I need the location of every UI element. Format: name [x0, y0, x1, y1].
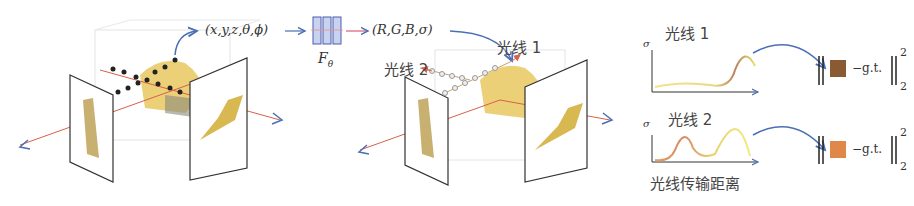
plot-ray-1: [652, 50, 758, 92]
loss-sub-1: 2: [900, 80, 907, 93]
loss-sub-2: 2: [900, 160, 907, 173]
diagram-canvas: [0, 0, 914, 206]
scene-1: [20, 20, 282, 182]
loss-gt-2: −g.t.: [852, 142, 882, 156]
loss-sup-1: 2: [900, 46, 907, 59]
predicted-color-ray-1: [830, 60, 846, 77]
loss-sup-2: 2: [900, 126, 907, 139]
network-label: Fθ: [318, 50, 333, 69]
x-axis-label: 光线传输距离: [650, 172, 740, 193]
plot-2-ylabel: σ: [643, 118, 650, 129]
plot-1-title: 光线 1: [665, 22, 709, 43]
loss-gt-1: −g.t.: [852, 61, 882, 75]
plot-ray-2: [652, 129, 758, 162]
network-f-theta: [311, 17, 343, 44]
plot-1-ylabel: σ: [643, 38, 650, 49]
input-coordinates-label: (x,y,z,θ,ϕ): [205, 22, 268, 37]
plot-2-title: 光线 2: [668, 108, 712, 129]
ray-1-label: 光线 1: [497, 36, 541, 57]
output-rgb-sigma-label: (R,G,B,σ): [372, 22, 433, 37]
predicted-color-ray-2: [830, 141, 846, 158]
ray-2-label: 光线 2: [384, 58, 428, 79]
